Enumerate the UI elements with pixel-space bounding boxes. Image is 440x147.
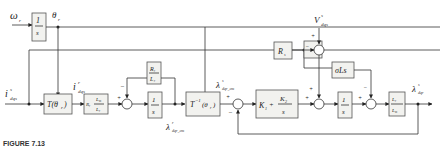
omega-input: ω r xyxy=(10,9,32,25)
svg-text:r: r xyxy=(172,120,174,125)
summing-junction-3: + + xyxy=(305,86,324,109)
sigma-ls-block: σLs xyxy=(332,62,354,78)
integrator-1-block: 1 s xyxy=(32,13,46,41)
svg-text:dqr: dqr xyxy=(418,90,424,95)
rr-lr-block: R r L r xyxy=(147,62,161,84)
svg-text:): ) xyxy=(63,100,67,109)
svg-text:−: − xyxy=(305,43,309,49)
svg-text:s: s xyxy=(222,78,224,83)
svg-text:dqs: dqs xyxy=(78,89,85,94)
summing-junction-4: + − xyxy=(358,84,376,109)
figure-caption: FIGURE 7.13 xyxy=(3,140,45,147)
svg-text:K: K xyxy=(258,101,265,110)
svg-text:ω: ω xyxy=(10,9,18,21)
svg-text:R: R xyxy=(277,47,283,56)
svg-text:dqs: dqs xyxy=(10,96,17,101)
svg-text:s: s xyxy=(36,29,39,37)
summing-junction-2: + − xyxy=(226,94,243,117)
svg-text:+: + xyxy=(311,33,315,39)
svg-text:λ: λ xyxy=(215,80,220,90)
block-diagram: ω r 1 s θ r i s dqs T(θ r ) i r dqs xyxy=(0,0,440,147)
svg-text:s: s xyxy=(418,82,420,87)
svg-text:s: s xyxy=(282,108,285,116)
svg-text:σLs: σLs xyxy=(335,66,347,75)
pi-controller-block: K 1 + K 2 s xyxy=(256,90,298,118)
svg-text:−: − xyxy=(120,83,125,91)
svg-text:s: s xyxy=(321,13,323,18)
lambda-cm-top-label: λ s dqr_cm xyxy=(215,78,234,91)
i-r-signal: i r dqs xyxy=(73,80,85,94)
rr-lm-lr-block: R r L m L r xyxy=(84,94,108,114)
svg-text:i: i xyxy=(5,88,8,99)
lr-lm-block: L r L m xyxy=(389,92,405,116)
svg-text:s: s xyxy=(152,108,155,116)
svg-text:−1: −1 xyxy=(195,98,201,103)
svg-text:+: + xyxy=(269,101,274,109)
svg-text:r: r xyxy=(58,17,60,22)
svg-text:θ: θ xyxy=(52,10,57,20)
svg-text:s: s xyxy=(10,87,12,92)
svg-text:−: − xyxy=(228,109,233,117)
lambda-output-label: λ s dqr xyxy=(411,82,424,95)
transform-block: T(θ r ) xyxy=(44,94,72,114)
svg-text:i: i xyxy=(73,81,76,92)
svg-text:2: 2 xyxy=(285,99,287,104)
svg-text:r: r xyxy=(61,105,63,110)
svg-text:(θ: (θ xyxy=(202,101,208,109)
summing-junction-v xyxy=(314,45,324,55)
svg-text:1: 1 xyxy=(36,16,40,25)
integrator-2-block: 1 s xyxy=(148,92,162,118)
svg-text:λ: λ xyxy=(165,122,170,132)
svg-text:dqs: dqs xyxy=(321,22,328,27)
inverse-transform-block: T −1 (θ r ) xyxy=(186,92,220,116)
svg-text:r: r xyxy=(78,80,80,85)
svg-text:+: + xyxy=(358,95,362,101)
svg-text:1: 1 xyxy=(152,96,156,104)
svg-text:dqr_cm: dqr_cm xyxy=(222,86,234,91)
svg-text:dqr_cm: dqr_cm xyxy=(172,128,184,133)
svg-text:λ: λ xyxy=(411,84,416,94)
current-input: i s dqs xyxy=(5,87,44,106)
theta-signal: θ r xyxy=(46,10,440,98)
lambda-cm-bottom-label: λ r dqr_cm xyxy=(165,120,184,133)
svg-text:T(θ: T(θ xyxy=(47,100,58,109)
svg-text:V: V xyxy=(314,15,321,25)
summing-junction-1: + − xyxy=(117,83,132,109)
rs-gain: R s xyxy=(274,42,292,59)
svg-text:1: 1 xyxy=(342,96,346,104)
svg-text:+: + xyxy=(226,94,230,100)
svg-text:s: s xyxy=(342,108,345,116)
svg-text:+: + xyxy=(117,95,121,101)
svg-text:−: − xyxy=(363,84,367,90)
svg-text:+: + xyxy=(309,86,313,92)
integrator-3-block: 1 s xyxy=(338,92,352,118)
svg-text:+: + xyxy=(305,95,309,101)
svg-text:r: r xyxy=(19,18,21,23)
voltage-input: V s dqs xyxy=(314,13,328,27)
svg-text:1: 1 xyxy=(265,106,267,111)
